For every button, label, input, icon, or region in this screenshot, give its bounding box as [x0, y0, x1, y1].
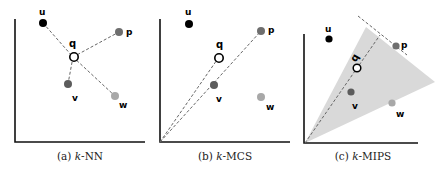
- label-v: v: [216, 94, 222, 104]
- point-u: [325, 35, 332, 42]
- panel-c-cone: [305, 27, 435, 143]
- label-u: u: [185, 7, 191, 17]
- point-u: [185, 20, 193, 28]
- label-w: w: [119, 100, 127, 110]
- point-w: [257, 93, 265, 101]
- panel-a-axes: [15, 19, 145, 142]
- label-u: u: [39, 7, 45, 17]
- label-v: v: [72, 93, 78, 103]
- caption-method: -NN: [81, 150, 103, 162]
- caption-prefix: (b): [198, 150, 216, 162]
- caption-prefix: (c): [335, 150, 352, 162]
- point-v: [64, 80, 72, 88]
- caption-method: -MCS: [223, 150, 253, 162]
- point-w: [111, 92, 119, 100]
- panel-a-knn: u p q v w: [15, 7, 145, 142]
- point-p: [257, 27, 265, 35]
- point-v: [347, 88, 354, 95]
- label-p: p: [268, 25, 275, 35]
- label-w: w: [266, 102, 274, 112]
- caption-prefix: (a): [57, 150, 75, 162]
- label-q: q: [216, 39, 223, 50]
- point-q: [353, 64, 361, 72]
- point-p: [392, 42, 399, 49]
- label-w: w: [396, 109, 404, 119]
- label-p: p: [126, 27, 133, 37]
- point-q: [70, 53, 78, 61]
- point-w: [388, 99, 395, 106]
- panel-b-axes: [160, 19, 290, 142]
- panel-c-kmips: u p q v w: [304, 16, 435, 143]
- caption-c: (c) k-MIPS: [293, 150, 433, 162]
- panel-a-distance-lines: [43, 23, 119, 96]
- panel-b-kmcs: u p q v w: [160, 7, 290, 142]
- point-v: [210, 81, 218, 89]
- point-p: [115, 28, 123, 36]
- figure-canvas: u p q v w u p q v w u p: [0, 0, 441, 173]
- caption-a: (a) k-NN: [10, 150, 150, 162]
- label-u: u: [325, 24, 331, 34]
- caption-method: -MIPS: [359, 150, 392, 162]
- point-u: [39, 19, 47, 27]
- label-q: q: [69, 38, 76, 49]
- caption-b: (b) k-MCS: [155, 150, 295, 162]
- label-v: v: [352, 101, 358, 111]
- point-q: [215, 54, 223, 62]
- label-p: p: [401, 40, 408, 50]
